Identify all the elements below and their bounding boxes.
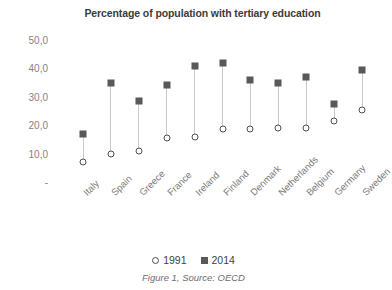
legend-label-2014: 2014 [212,254,235,266]
filled-square-icon [201,257,208,264]
data-point-1991[interactable] [80,159,87,166]
data-point-2014[interactable] [135,98,142,105]
data-point-2014[interactable] [359,66,366,73]
data-point-2014[interactable] [219,59,226,66]
data-point-2014[interactable] [303,73,310,80]
data-point-2014[interactable] [275,79,282,86]
data-point-2014[interactable] [80,130,87,137]
x-axis-category-label: Italy [81,178,101,198]
open-circle-icon [152,257,159,264]
data-connector-line [166,85,167,138]
chart-legend: 1991 2014 [0,254,387,266]
data-connector-line [194,66,195,137]
data-point-2014[interactable] [163,82,170,89]
data-point-2014[interactable] [107,79,114,86]
x-axis-category-label: Spain [109,173,134,198]
data-point-1991[interactable] [219,126,226,133]
x-axis-category-label: Finland [221,168,251,198]
legend-item-2014[interactable]: 2014 [201,254,235,266]
data-point-1991[interactable] [191,133,198,140]
data-point-1991[interactable] [107,150,114,157]
data-point-1991[interactable] [303,125,310,132]
data-connector-line [250,80,251,130]
data-point-2014[interactable] [247,76,254,83]
x-axis-category-label: Ireland [193,169,221,197]
figure-caption: Figure 1, Source: OECD [0,272,387,283]
data-connector-line [222,63,223,130]
data-point-1991[interactable] [359,106,366,113]
data-connector-line [138,101,139,151]
data-point-2014[interactable] [191,62,198,69]
legend-label-1991: 1991 [163,254,186,266]
legend-item-1991[interactable]: 1991 [152,254,186,266]
data-point-1991[interactable] [163,134,170,141]
x-axis-category-label: Greece [137,168,167,198]
data-point-1991[interactable] [331,117,338,124]
x-axis-category-label: France [165,169,194,198]
data-point-2014[interactable] [331,100,338,107]
data-connector-line [306,77,307,128]
data-point-1991[interactable] [275,125,282,132]
data-connector-line [110,83,111,154]
data-connector-line [362,70,363,110]
data-connector-line [278,83,279,128]
data-point-1991[interactable] [135,147,142,154]
data-point-1991[interactable] [247,126,254,133]
